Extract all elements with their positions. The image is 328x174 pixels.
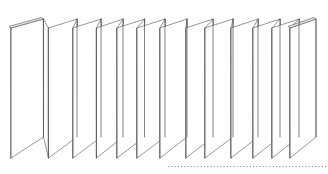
- shadow-dot: [299, 166, 300, 167]
- accordion-panel-group: [9, 17, 316, 158]
- ground-shadow-group: [168, 166, 326, 167]
- shadow-dot: [224, 166, 225, 167]
- shadow-dot: [220, 166, 221, 167]
- illustration-canvas: Accordion-folded book Line-art perspecti…: [0, 0, 328, 174]
- shadow-dot: [247, 166, 248, 167]
- shadow-dot: [282, 166, 283, 167]
- accordion-panel: [160, 19, 187, 158]
- shadow-dot: [279, 166, 280, 167]
- shadow-dot: [273, 166, 274, 167]
- accordion-panel: [44, 19, 49, 158]
- shadow-dot: [197, 166, 198, 167]
- shadow-dot: [296, 166, 297, 167]
- shadow-dot: [305, 166, 306, 167]
- accordion-panel: [11, 19, 44, 158]
- shadow-dot: [214, 166, 215, 167]
- shadow-dot: [318, 166, 319, 167]
- shadow-dot: [269, 166, 270, 167]
- shadow-dot: [286, 166, 287, 167]
- shadow-dot: [184, 166, 185, 167]
- shadow-dot: [309, 166, 310, 167]
- shadow-dot: [233, 166, 234, 167]
- shadow-dot: [194, 166, 195, 167]
- shadow-dot: [263, 166, 264, 167]
- shadow-dot: [315, 166, 316, 167]
- accordion-panel: [290, 19, 316, 158]
- shadow-dot: [302, 166, 303, 167]
- shadow-dot: [240, 166, 241, 167]
- shadow-dot: [312, 166, 313, 167]
- shadow-dot: [204, 166, 205, 167]
- shadow-dot: [191, 166, 192, 167]
- shadow-dot: [175, 166, 176, 167]
- shadow-dot: [253, 166, 254, 167]
- shadow-dot: [227, 166, 228, 167]
- shadow-dot: [171, 166, 172, 167]
- shadow-dot: [207, 166, 208, 167]
- shadow-dot: [181, 166, 182, 167]
- shadow-dot: [243, 166, 244, 167]
- shadow-dot: [266, 166, 267, 167]
- shadow-dot: [276, 166, 277, 167]
- shadow-dot: [289, 166, 290, 167]
- shadow-dot: [325, 166, 326, 167]
- shadow-dot: [211, 166, 212, 167]
- shadow-dot: [260, 166, 261, 167]
- shadow-dot: [230, 166, 231, 167]
- shadow-dot: [237, 166, 238, 167]
- accordion-book-drawing: Accordion-folded book Line-art perspecti…: [0, 0, 328, 174]
- shadow-dot: [188, 166, 189, 167]
- shadow-dot: [178, 166, 179, 167]
- shadow-dot: [217, 166, 218, 167]
- shadow-dot: [322, 166, 323, 167]
- shadow-dot: [292, 166, 293, 167]
- accordion-panel: [205, 19, 233, 158]
- shadow-dot: [256, 166, 257, 167]
- shadow-dot: [250, 166, 251, 167]
- shadow-dot: [168, 166, 169, 167]
- shadow-dot: [201, 166, 202, 167]
